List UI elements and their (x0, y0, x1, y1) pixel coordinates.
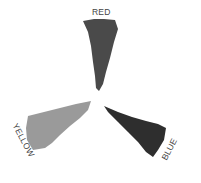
red-wedge (83, 19, 118, 91)
blue-wedge (104, 106, 166, 157)
red-label: RED (92, 8, 111, 17)
yellow-wedge (26, 101, 91, 150)
color-wedge-diagram: RED YELLOW BLUE (0, 0, 201, 183)
